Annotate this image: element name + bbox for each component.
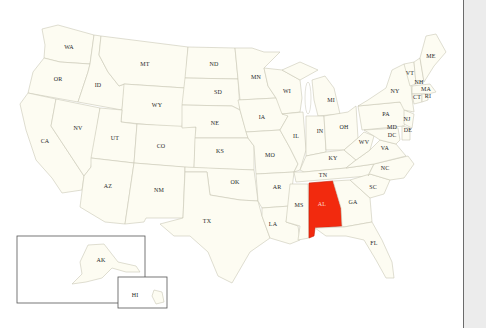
label-ne: NE (211, 120, 220, 126)
label-va: VA (381, 145, 390, 151)
label-ak: AK (96, 257, 106, 263)
label-mo: MO (265, 152, 276, 158)
label-ri: RI (425, 93, 431, 99)
label-al: AL (318, 201, 327, 207)
label-ia: IA (259, 114, 266, 120)
label-co: CO (157, 143, 166, 149)
label-la: LA (269, 221, 278, 227)
label-ut: UT (111, 135, 120, 141)
state-in[interactable] (306, 116, 326, 156)
label-sc: SC (369, 184, 377, 190)
label-mt: MT (140, 61, 150, 67)
label-ny: NY (390, 88, 400, 94)
label-ky: KY (328, 155, 338, 161)
label-oh: OH (339, 124, 349, 130)
label-or: OR (54, 76, 63, 82)
label-pa: PA (382, 111, 390, 117)
label-nh: NH (414, 79, 424, 85)
label-ar: AR (273, 184, 282, 190)
label-mn: MN (251, 74, 262, 80)
label-ks: KS (216, 148, 224, 154)
label-wy: WY (152, 102, 163, 108)
label-me: ME (426, 53, 436, 59)
label-wa: WA (64, 44, 74, 50)
label-fl: FL (370, 240, 378, 246)
label-sd: SD (214, 89, 223, 95)
label-ct: CT (413, 94, 421, 100)
label-ca: CA (41, 138, 50, 144)
label-vt: VT (406, 70, 415, 76)
label-az: AZ (104, 183, 113, 189)
us-map: WA OR CA ID NV MT WY UT CO AZ NM ND SD N… (0, 0, 463, 328)
label-nj: NJ (403, 116, 411, 122)
label-ms: MS (294, 202, 303, 208)
label-id: ID (95, 82, 102, 88)
label-nd: ND (209, 61, 219, 67)
label-md: MD (387, 124, 398, 130)
label-ma: MA (421, 86, 432, 92)
label-ga: GA (348, 199, 358, 205)
side-panel (463, 0, 486, 328)
label-tn: TN (319, 172, 328, 178)
us-map-svg: WA OR CA ID NV MT WY UT CO AZ NM ND SD N… (0, 0, 463, 328)
label-ok: OK (230, 179, 240, 185)
label-wv: WV (359, 139, 370, 145)
state-ks[interactable] (194, 138, 254, 170)
label-wi: WI (283, 88, 291, 94)
label-de: DE (404, 127, 413, 133)
label-tx: TX (203, 218, 212, 224)
label-nv: NV (73, 125, 83, 131)
label-il: IL (293, 133, 299, 139)
label-nm: NM (154, 187, 165, 193)
state-fl[interactable] (315, 222, 394, 278)
label-in: IN (317, 128, 324, 134)
label-dc: DC (388, 132, 397, 138)
state-nm[interactable] (125, 163, 185, 224)
label-nc: NC (381, 165, 390, 171)
label-mi: MI (327, 97, 335, 103)
lake-michigan (305, 82, 311, 114)
state-mi[interactable] (312, 76, 340, 116)
label-hi: HI (132, 292, 139, 298)
